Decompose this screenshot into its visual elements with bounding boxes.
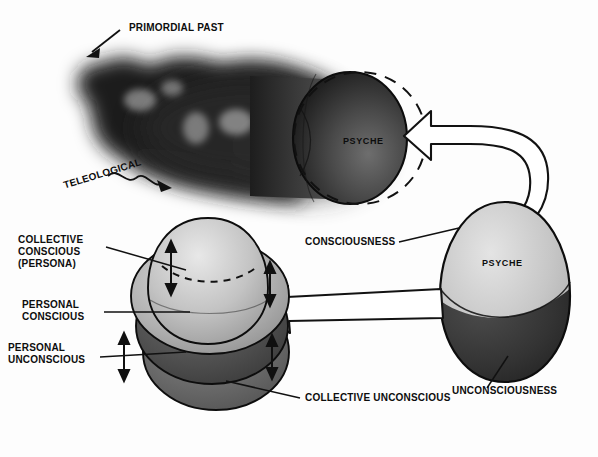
label-collective-conscious-persona: COLLECTIVE CONSCIOUS (PERSONA): [18, 234, 83, 269]
diagram-canvas: PRIMORDIAL PAST TELEOLOGICAL PSYCHE PSYC…: [0, 0, 598, 457]
label-personal-unconscious: PERSONAL UNCONSCIOUS: [8, 342, 85, 366]
psyche-egg-right: [430, 190, 590, 400]
label-psyche-cylinder: PSYCHE: [343, 136, 384, 147]
label-primordial-past: PRIMORDIAL PAST: [129, 22, 224, 34]
label-collective-conscious-line2: CONSCIOUS: [18, 246, 83, 258]
label-personal-conscious-line2: CONSCIOUS: [22, 311, 84, 323]
consciousness-leader-line: [399, 228, 459, 242]
label-collective-conscious-line3: (PERSONA): [18, 258, 83, 270]
primordial-past-pointer-arrow: [86, 30, 120, 58]
psyche-layer-stack-left: [131, 218, 289, 410]
label-personal-unconscious-line2: UNCONSCIOUS: [8, 354, 85, 366]
label-consciousness: CONSCIOUSNESS: [305, 236, 395, 248]
label-personal-unconscious-line1: PERSONAL: [8, 342, 85, 354]
label-psyche-egg: PSYCHE: [482, 258, 523, 269]
label-personal-conscious-line1: PERSONAL: [22, 299, 84, 311]
label-unconsciousness: UNCONSCIOUSNESS: [452, 385, 557, 397]
label-collective-conscious-line1: COLLECTIVE: [18, 234, 83, 246]
label-collective-unconscious: COLLECTIVE UNCONSCIOUS: [305, 392, 451, 404]
label-personal-conscious: PERSONAL CONSCIOUS: [22, 299, 84, 323]
